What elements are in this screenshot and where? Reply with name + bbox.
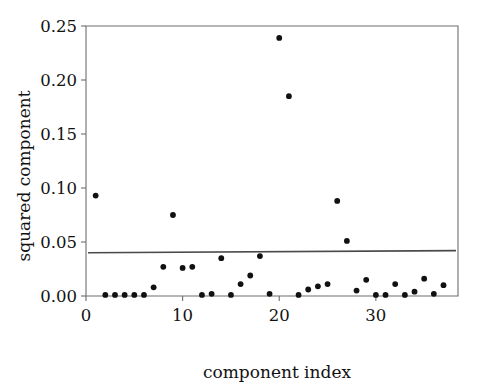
data-point: [373, 292, 379, 298]
data-point: [102, 292, 108, 298]
data-point: [238, 281, 244, 287]
data-point: [421, 276, 427, 282]
plot-canvas: 0.000.050.100.150.200.25 0102030 compone…: [0, 0, 482, 389]
data-point: [141, 292, 147, 298]
data-point: [228, 292, 234, 298]
threshold-line: [88, 251, 456, 253]
data-point: [383, 292, 389, 298]
y-tick-label: 0.20: [40, 71, 77, 90]
data-point: [276, 35, 282, 41]
data-point: [218, 255, 224, 261]
y-tick-label: 0.10: [40, 179, 77, 198]
x-tick-label: 20: [269, 306, 290, 325]
data-point: [392, 281, 398, 287]
threshold-line-group: [88, 251, 456, 253]
data-point: [170, 212, 176, 218]
data-point: [325, 281, 331, 287]
data-point: [247, 273, 253, 279]
x-axis-title: component index: [203, 362, 352, 382]
data-point: [122, 292, 128, 298]
data-point: [344, 238, 350, 244]
data-point: [257, 253, 263, 259]
data-point: [402, 292, 408, 298]
y-tick-label: 0.05: [40, 233, 77, 252]
data-point: [334, 198, 340, 204]
x-tick-label: 30: [365, 306, 386, 325]
data-point: [180, 265, 186, 271]
y-tick-label: 0.15: [40, 125, 77, 144]
data-point: [315, 283, 321, 289]
data-point: [199, 292, 205, 298]
data-point: [189, 264, 195, 270]
x-tick-label: 0: [81, 306, 92, 325]
data-point: [267, 291, 273, 297]
data-point: [131, 292, 137, 298]
scatter-plot-figure: 0.000.050.100.150.200.25 0102030 compone…: [0, 0, 482, 389]
y-axis-ticks: 0.000.050.100.150.200.25: [40, 17, 86, 306]
data-point: [112, 292, 118, 298]
data-point: [151, 284, 157, 290]
data-point: [441, 282, 447, 288]
data-point: [412, 289, 418, 295]
data-point: [209, 291, 215, 297]
data-point: [160, 264, 166, 270]
x-axis-ticks: 0102030: [81, 296, 387, 325]
y-axis-title: squared component: [14, 90, 34, 261]
data-point: [93, 193, 99, 199]
data-point: [296, 292, 302, 298]
data-point: [431, 291, 437, 297]
x-tick-label: 10: [172, 306, 193, 325]
data-point: [363, 277, 369, 283]
plot-frame: [86, 26, 458, 296]
data-point: [354, 288, 360, 294]
plot-border: [86, 26, 458, 296]
y-tick-label: 0.00: [40, 287, 77, 306]
y-tick-label: 0.25: [40, 17, 77, 36]
data-points-group: [93, 35, 447, 298]
data-point: [305, 287, 311, 293]
data-point: [286, 93, 292, 99]
